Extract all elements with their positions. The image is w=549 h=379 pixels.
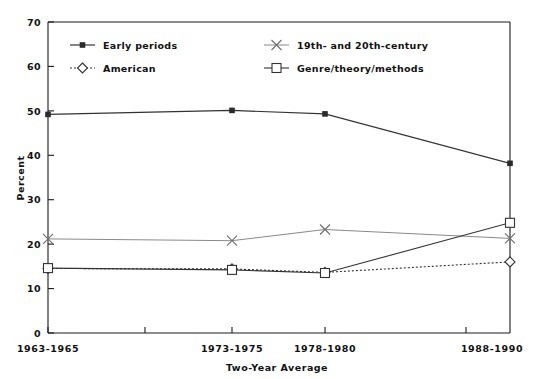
x-tick-label-4: 1988-1990 — [461, 343, 523, 354]
marker-square-0 — [44, 264, 53, 273]
y-tick-label-40: 40 — [27, 150, 41, 161]
y-tick-label-50: 50 — [27, 106, 41, 117]
y-tick-label-70: 70 — [27, 17, 41, 28]
open-square-icon — [272, 64, 281, 73]
y-tick-label-20: 20 — [27, 239, 41, 250]
marker-square-3 — [506, 218, 515, 227]
marker-filled-square-2 — [322, 111, 328, 117]
x-axis-title: Two-Year Average — [226, 362, 328, 373]
chart-background — [0, 0, 549, 379]
marker-filled-square-0 — [45, 112, 51, 118]
x-tick-label-2: 1973-1975 — [201, 343, 263, 354]
y-tick-label-10: 10 — [27, 283, 41, 294]
x-tick-label-3: 1978-1980 — [294, 343, 356, 354]
legend-label-american: American — [103, 63, 156, 74]
marker-square-2 — [321, 269, 330, 278]
legend-label-19th-20th: 19th- and 20th-century — [297, 40, 429, 51]
chart-container: 0 10 20 30 40 50 60 70 1963-1965 1973-19… — [0, 0, 549, 379]
y-tick-label-60: 60 — [27, 61, 41, 72]
legend-label-early-periods: Early periods — [103, 40, 177, 51]
filled-square-icon — [80, 42, 86, 48]
legend-label-genre: Genre/theory/methods — [297, 63, 424, 74]
marker-square-1 — [228, 265, 237, 274]
legend-item-american[interactable]: American — [70, 63, 156, 74]
line-chart: 0 10 20 30 40 50 60 70 1963-1965 1973-19… — [0, 0, 549, 379]
marker-filled-square-1 — [229, 108, 235, 114]
y-tick-label-30: 30 — [27, 194, 41, 205]
marker-filled-square-3 — [507, 161, 513, 167]
x-tick-label-0: 1963-1965 — [17, 343, 79, 354]
y-axis-title: Percent — [15, 156, 26, 201]
y-tick-label-0: 0 — [34, 328, 41, 339]
